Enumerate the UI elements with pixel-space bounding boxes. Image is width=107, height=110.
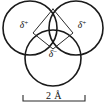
delta-plus-right-sign: + xyxy=(82,19,86,27)
delta-plus-left-sign: + xyxy=(24,19,28,27)
scale-bar-label: 2 Å xyxy=(46,90,62,101)
molecule-circles xyxy=(3,1,103,86)
delta-plus-right-label: δ+ xyxy=(78,19,86,30)
scale-bar-group: 2 Å xyxy=(23,90,85,101)
figure-container: δ+ δ+ δ− 2 Å xyxy=(0,0,107,110)
delta-plus-left-label: δ+ xyxy=(20,19,28,30)
delta-minus-bottom-label: δ− xyxy=(49,48,57,59)
delta-minus-bottom-sign: − xyxy=(53,48,57,56)
charge-label-group: δ+ δ+ δ− xyxy=(20,19,86,59)
water-molecule-diagram: δ+ δ+ δ− 2 Å xyxy=(0,0,107,110)
